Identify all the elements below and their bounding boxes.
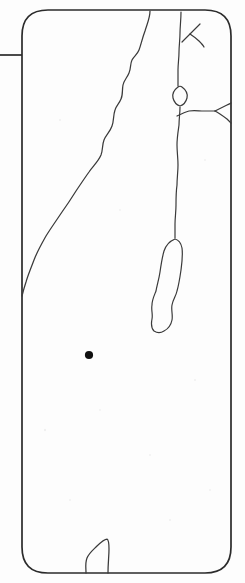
- map-feature-mediterranean-coastline: Mediterranean coastline: [22, 11, 150, 296]
- map-feature-jordan-river-upper: Upper Jordan River: [178, 12, 181, 86]
- map-feature-dead-sea: Dead Sea: [151, 239, 182, 333]
- map-feature-tributary-east-branch: Eastern branch: [190, 34, 204, 47]
- scan-speck: [44, 429, 46, 431]
- map-feature-gulf-of-aqaba-inlet: Southern gulf inlet: [86, 539, 109, 573]
- scan-noise-layer: [44, 119, 211, 521]
- map-feature-sea-of-galilee: Sea of Galilee: [173, 86, 188, 106]
- map-feature-eastern-border-south-arm: Eastern border south arm: [215, 111, 231, 123]
- scan-speck: [204, 159, 206, 161]
- scan-speck: [59, 119, 61, 121]
- scan-speck: [149, 454, 151, 456]
- map-feature-jordan-river-lower: Lower Jordan River: [175, 107, 180, 238]
- map-figure: Mediterranean coastlineUpper Jordan Rive…: [0, 0, 245, 583]
- map-frame-border: [22, 10, 231, 573]
- map-features-layer: Mediterranean coastlineUpper Jordan Rive…: [22, 11, 231, 573]
- map-marker-site-marker[interactable]: Site location: [85, 351, 93, 359]
- map-canvas: Mediterranean coastlineUpper Jordan Rive…: [0, 0, 245, 583]
- scan-speck: [119, 209, 121, 211]
- map-feature-eastern-border-west-arm: Eastern border western arm: [177, 111, 215, 116]
- map-feature-eastern-border-north-arm: Eastern border north arm: [215, 103, 231, 111]
- scan-speck: [209, 489, 211, 491]
- scan-speck: [99, 409, 101, 411]
- scan-speck: [194, 379, 196, 381]
- scan-speck: [169, 519, 171, 521]
- map-markers-layer: Site location: [85, 351, 93, 359]
- scan-speck: [69, 499, 71, 501]
